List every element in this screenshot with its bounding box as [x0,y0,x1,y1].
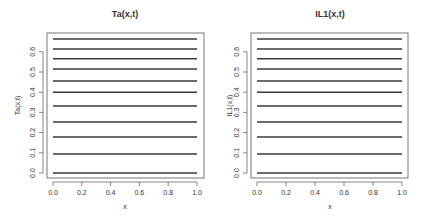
y-tick-label: 0.3 [233,107,240,117]
y-tick-label: 0.0 [29,168,36,178]
chart-title: Ta(x,t) [112,9,138,19]
x-tick-label: 0.8 [163,189,173,196]
chart-ta: Ta(x,t)0.00.20.40.60.81.00.00.10.20.30.4… [0,0,212,221]
chart-title: IL1(x,t) [315,9,345,19]
y-tick-label: 0.6 [233,47,240,57]
y-tick-label: 0.5 [233,67,240,77]
x-axis-label: x [328,203,332,210]
y-tick-label: 0.0 [233,168,240,178]
x-tick-label: 0.2 [281,189,291,196]
y-axis-label: Ta(x,t) [14,96,22,115]
x-tick-label: 0.4 [310,189,320,196]
x-tick-label: 0.6 [135,189,145,196]
x-tick-label: 0.6 [339,189,349,196]
x-tick-label: 0.8 [368,189,378,196]
x-axis-label: x [123,203,127,210]
x-tick-label: 1.0 [192,189,202,196]
y-tick-label: 0.5 [29,67,36,77]
chart-panel-ta: Ta(x,t)0.00.20.40.60.81.00.00.10.20.30.4… [0,0,212,221]
y-tick-label: 0.4 [233,87,240,97]
chart-panel-il1: IL1(x,t)0.00.20.40.60.81.00.00.10.20.30.… [212,0,424,221]
x-tick-label: 0.4 [106,189,116,196]
y-tick-label: 0.4 [29,87,36,97]
x-tick-label: 0.0 [48,189,58,196]
chart-il1: IL1(x,t)0.00.20.40.60.81.00.00.10.20.30.… [212,0,424,221]
y-tick-label: 0.2 [233,128,240,138]
y-axis-label: IL1(x,t) [226,95,234,117]
y-tick-label: 0.1 [233,148,240,158]
y-tick-label: 0.3 [29,107,36,117]
y-tick-label: 0.1 [29,148,36,158]
x-tick-label: 0.0 [252,189,262,196]
y-tick-label: 0.2 [29,128,36,138]
x-tick-label: 0.2 [77,189,87,196]
x-tick-label: 1.0 [397,189,407,196]
y-tick-label: 0.6 [29,47,36,57]
